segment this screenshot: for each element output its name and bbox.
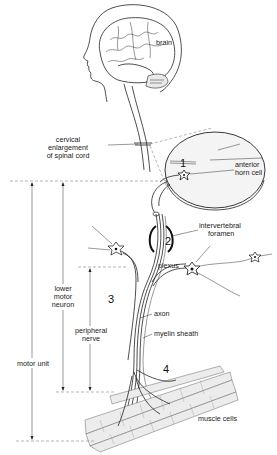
label-brain: brain bbox=[156, 38, 172, 47]
label-motor-unit: motor unit bbox=[17, 359, 49, 368]
label-intervertebral-2: foramen bbox=[208, 229, 234, 238]
motor-unit-diagram: brain cervical enlargement of spinal cor… bbox=[0, 0, 277, 455]
right-neurons bbox=[184, 246, 272, 296]
label-lower-motor-3: neuron bbox=[52, 300, 74, 309]
ventral-root bbox=[152, 182, 166, 214]
leader-axon bbox=[140, 314, 152, 318]
label-peripheral-2: nerve bbox=[82, 334, 100, 343]
label-axon: axon bbox=[154, 309, 170, 318]
label-plexus: plexus bbox=[158, 261, 179, 270]
label-anterior-horn-2: horn cell bbox=[235, 168, 263, 177]
brain-illustration bbox=[99, 18, 174, 88]
label-muscle-cells: muscle cells bbox=[198, 414, 238, 423]
leader-foramen bbox=[172, 230, 198, 236]
leader-cervical bbox=[108, 144, 138, 145]
leader-myelin bbox=[143, 334, 152, 338]
spinal-cord bbox=[124, 84, 152, 172]
number-4: 4 bbox=[163, 363, 169, 375]
label-myelin-sheath: myelin sheath bbox=[154, 329, 198, 338]
muscle-fibers bbox=[85, 366, 238, 452]
number-1: 1 bbox=[180, 157, 186, 169]
label-cervical-3: of spinal cord bbox=[47, 151, 90, 160]
number-3: 3 bbox=[108, 293, 114, 305]
